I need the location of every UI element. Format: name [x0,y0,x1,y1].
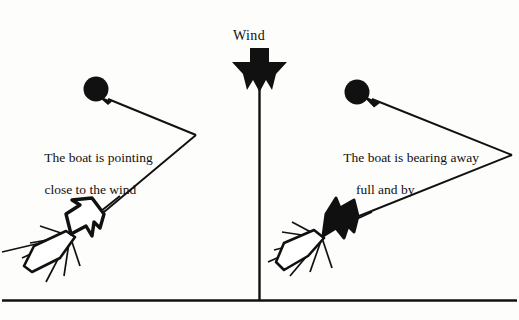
right-caption-line-1: The boat is bearing away [343,150,479,165]
right-caption: The boat is bearing away full and by [330,134,479,230]
left-course-mark-buoy [84,77,109,102]
right-caption-line-2: full and by [330,182,479,198]
left-caption-line-1: The boat is pointing [44,150,152,165]
wind-label: Wind [233,28,265,45]
wind-direction-arrow-down-icon [232,48,287,92]
diagram-figure: Wind The boat is pointing close to the w… [0,0,519,320]
right-course-mark-buoy [345,80,370,105]
left-caption: The boat is pointing close to the wind [31,134,153,214]
left-caption-line-2: close to the wind [45,182,137,197]
